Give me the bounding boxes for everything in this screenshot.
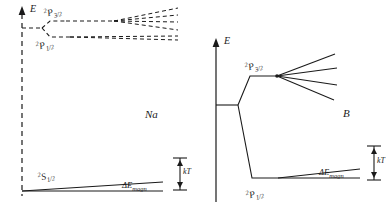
right-fan-line-4 [277, 76, 334, 100]
right-delta-e-text: ΔE [319, 167, 329, 177]
left-delta-e-label: ΔEmagn [122, 181, 147, 192]
right-fan-origin-dot [275, 74, 279, 78]
left-axis-label: E [30, 4, 36, 14]
right-delta-e-label: ΔEmagn [319, 168, 344, 179]
left-kt-arrow-down [177, 182, 183, 188]
left-fan-line-1 [114, 8, 178, 21]
right-unsplit-level [216, 76, 278, 178]
left-term-2p12-j: 1/2 [45, 43, 55, 52]
left-fan-line-2 [114, 15, 178, 21]
left-fan-line-4 [114, 21, 178, 30]
right-energy-axis [213, 38, 220, 202]
right-delta-e-subscript: magn [329, 172, 343, 179]
right-fork-lower [238, 105, 278, 178]
right-term-2p12-j: 1/2 [255, 192, 265, 201]
right-axis-arrowhead [213, 38, 220, 47]
right-fan-line-1 [277, 54, 335, 76]
right-2p32-zeeman-fan [275, 54, 337, 100]
left-delta-e-subscript: magn [132, 185, 146, 192]
right-fan-line-3 [277, 76, 337, 85]
left-delta-e-text: ΔE [122, 180, 132, 190]
right-axis-label: E [224, 36, 230, 46]
left-kt-label: kT [183, 168, 191, 176]
left-energy-axis [19, 6, 26, 196]
left-fork-upper [42, 21, 66, 28]
left-axis-arrowhead [19, 6, 26, 15]
right-element-label: B [343, 108, 350, 119]
left-element-label: Na [145, 109, 158, 120]
left-fork-lower [42, 28, 70, 37]
right-kt-arrow-down [371, 172, 377, 178]
right-kt-label: kT [377, 157, 385, 165]
right-kt-arrow-up [371, 148, 377, 154]
left-kt-arrow-up [177, 160, 183, 166]
left-2p32-zeeman-fan [114, 8, 178, 30]
right-fork-upper [238, 76, 277, 105]
left-2p12-line-1 [70, 36, 178, 37]
figure-zeeman-splitting: E 2P3/2 2P1/2 2S1/2 Na kT ΔEmagn E 2P3/2… [0, 0, 392, 209]
left-term-2s12-j: 1/2 [46, 174, 56, 183]
left-2p12-line-2 [70, 37, 178, 40]
left-2p12-zeeman-fan [70, 36, 178, 40]
left-term-2p32-j: 3/2 [53, 10, 63, 19]
left-unsplit-level [22, 21, 70, 37]
right-term-2p32-j: 3/2 [254, 64, 264, 73]
